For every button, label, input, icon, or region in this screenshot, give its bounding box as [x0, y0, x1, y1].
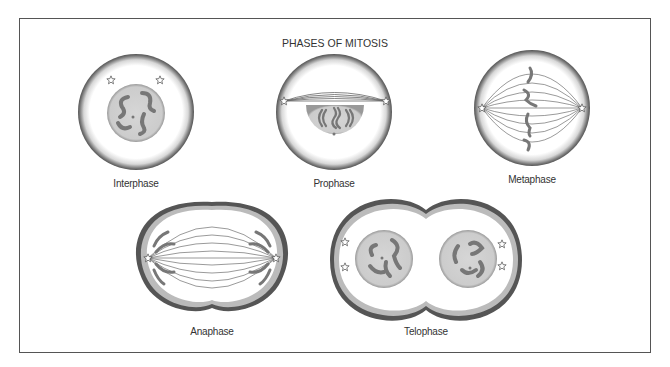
- telophase-cell: [330, 199, 522, 321]
- interphase-cell: [78, 54, 194, 170]
- prophase-label: Prophase: [274, 178, 394, 189]
- metaphase-cell: [474, 50, 590, 166]
- metaphase-label: Metaphase: [472, 174, 592, 185]
- telophase-label: Telophase: [366, 326, 486, 337]
- anaphase-label: Anaphase: [152, 326, 272, 337]
- anaphase-cell: [136, 202, 288, 311]
- interphase-label: Interphase: [76, 178, 196, 189]
- prophase-cell: [276, 54, 392, 170]
